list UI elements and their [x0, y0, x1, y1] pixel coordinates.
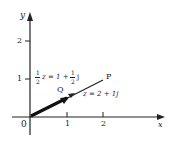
half-z-frac-lhs-num: 1 [36, 70, 40, 76]
point-q-label: Q [57, 86, 64, 94]
half-z-equation-j: j [77, 74, 79, 81]
y-tick-label-1: 1 [17, 75, 22, 83]
half-z-frac-rhs-den: 2 [71, 79, 75, 85]
origin-label: 0 [21, 120, 27, 129]
point-p-label: P [106, 73, 111, 81]
y-tick-label-2: 2 [17, 37, 22, 45]
half-z-frac-lhs-den: 2 [36, 79, 40, 85]
z-equation-label: z = 2 + 1j [83, 91, 118, 98]
y-axis-label: y [20, 11, 25, 20]
y-axis-arrow-icon [27, 12, 33, 21]
half-z-frac-rhs-num: 1 [71, 70, 75, 76]
x-axis-label: x [158, 121, 163, 129]
x-tick-label-1: 1 [65, 120, 70, 128]
half-z-equation-mid: z = 1 + [42, 74, 69, 81]
x-tick-label-2: 2 [101, 120, 106, 128]
vector-half-z [31, 98, 67, 116]
